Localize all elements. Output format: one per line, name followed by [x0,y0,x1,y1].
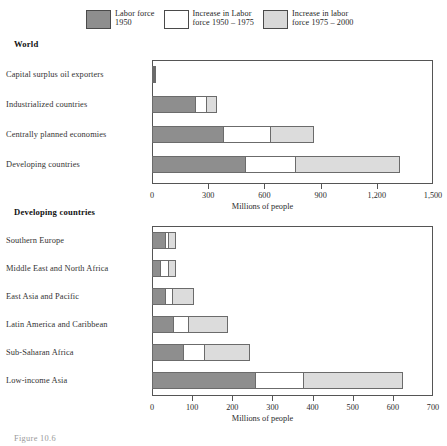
bar-segment-1 [245,156,297,173]
bar-row [152,344,249,361]
category-label: Centrally planned economies [6,130,146,139]
bar-row [152,372,402,389]
bar-segment-1 [183,344,205,361]
axis-tick [393,396,394,401]
bar-segment-0 [152,126,224,143]
figure-page: Labor force 1950Increase in Labor force … [0,0,447,446]
axis-tick-label: 600 [258,191,270,200]
bar-segment-0 [152,96,196,113]
axis-tick [272,396,273,401]
bar-segment-0 [152,344,184,361]
category-label: Sub-Saharan Africa [6,348,146,357]
axis-tick-label: 0 [150,191,154,200]
axis-tick [264,184,265,189]
axis-tick-label: 100 [186,403,198,412]
chart-world: Capital surplus oil exportersIndustriali… [152,60,433,184]
bar-segment-2 [154,66,156,83]
axis-tick-label: 1,200 [368,191,386,200]
bar-segment-2 [270,126,314,143]
legend-label: Labor force 1950 [115,9,155,28]
bar-segment-0 [152,232,166,249]
axis-tick [232,396,233,401]
x-axis-caption: Millions of people [232,202,293,211]
bar-segment-1 [223,126,271,143]
category-label: Developing countries [6,160,146,169]
axis-tick-label: 300 [266,403,278,412]
axis-tick-label: 0 [150,403,154,412]
legend-swatch-white [164,10,189,29]
legend-item-0: Labor force 1950 [86,9,155,29]
axis-tick-label: 900 [314,191,326,200]
bar-row [152,288,193,305]
plot-area-developing [152,226,433,396]
legend-label: Increase in Labor force 1950 – 1975 [193,9,255,28]
axis-tick [192,396,193,401]
category-label: Latin America and Caribbean [6,320,146,329]
legend-swatch-light [263,10,288,29]
figure-caption: Figure 10.6 [14,434,56,443]
axis-tick [321,184,322,189]
bar-segment-2 [168,260,177,277]
bar-row [152,96,216,113]
bar-segment-2 [204,344,250,361]
bar-segment-0 [152,372,256,389]
axis-tick-label: 400 [306,403,318,412]
axis-tick-label: 500 [347,403,359,412]
legend-swatch-dark [86,10,111,29]
axis-tick-label: 300 [202,191,214,200]
legend-item-1: Increase in Labor force 1950 – 1975 [164,9,255,29]
x-axis-caption: Millions of people [232,414,293,423]
bar-segment-2 [206,96,217,113]
bar-segment-1 [173,316,189,333]
bar-row [152,126,313,143]
chart-developing: Southern EuropeMiddle East and North Afr… [152,226,433,396]
bar-row [152,316,227,333]
section-title-developing: Developing countries [14,207,95,217]
chart-legend: Labor force 1950Increase in Labor force … [86,9,354,29]
axis-tick [377,184,378,189]
axis-tick-label: 600 [387,403,399,412]
bar-segment-2 [295,156,400,173]
bar-row [152,260,175,277]
axis-tick [313,396,314,401]
y-axis-developing [152,226,153,396]
legend-item-2: Increase in labor force 1975 – 2000 [263,9,354,29]
category-label: East Asia and Pacific [6,292,146,301]
category-label: Southern Europe [6,236,146,245]
bar-row [152,156,399,173]
legend-label: Increase in labor force 1975 – 2000 [292,9,354,28]
category-label: Industrialized countries [6,100,146,109]
bar-segment-2 [303,372,403,389]
axis-tick-label: 700 [427,403,439,412]
axis-tick [353,396,354,401]
axis-tick-label: 200 [226,403,238,412]
bar-segment-0 [152,288,166,305]
category-label: Middle East and North Africa [6,264,146,273]
bar-row [152,66,155,83]
section-title-world: World [14,39,38,49]
bar-segment-1 [255,372,303,389]
category-label: Low-income Asia [6,376,146,385]
bar-row [152,232,175,249]
axis-tick-label: 1,500 [424,191,442,200]
bar-segment-2 [172,288,194,305]
bar-segment-2 [188,316,228,333]
bar-segment-0 [152,316,174,333]
axis-tick [208,184,209,189]
category-label: Capital surplus oil exporters [6,70,146,79]
bar-segment-0 [152,156,246,173]
bar-segment-2 [168,232,176,249]
